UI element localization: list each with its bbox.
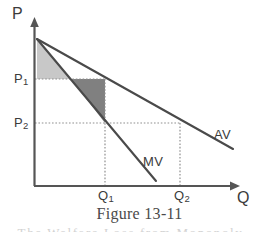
x-tick-q2-subscript: 2 [185,193,190,204]
av-curve [37,39,233,149]
figure-container: P Q P1 P2 Q1 Q2 MV AV Figure 13-11 The W… [0,0,261,232]
economics-plot [0,0,261,232]
x-axis-label: Q [237,190,250,206]
x-tick-q1-base: Q [98,188,108,203]
av-curve-label: AV [214,128,231,141]
y-tick-p2-base: P [14,115,23,130]
y-tick-p1-subscript: 1 [23,76,28,87]
y-tick-p1-base: P [14,71,23,86]
y-tick-label-p2: P2 [14,116,28,129]
mv-curve-label: MV [143,155,163,168]
y-tick-p2-subscript: 2 [23,120,28,131]
caption-bleed-text: The Welfare Loss from Monopoly [0,225,261,232]
mv-curve [37,39,156,181]
y-tick-label-p1: P1 [14,72,28,85]
y-axis-label: P [12,6,23,22]
x-tick-q1-subscript: 1 [109,193,114,204]
x-tick-label-q2: Q2 [174,189,189,202]
figure-caption-text: Figure 13-11 [78,205,182,223]
figure-caption: Figure 13-11 [0,205,261,223]
x-tick-q2-base: Q [174,188,184,203]
y-axis-arrowhead-icon [30,17,39,27]
x-tick-label-q1: Q1 [98,189,113,202]
